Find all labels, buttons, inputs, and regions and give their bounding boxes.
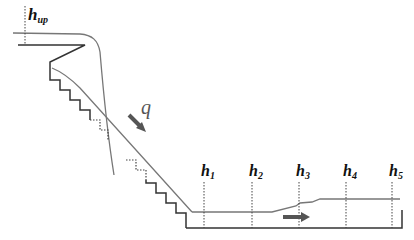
dotted-steps-lower <box>126 160 146 180</box>
gauge-h2: h2 <box>249 162 263 228</box>
basin-water-surface <box>192 199 400 212</box>
chute-flow-line <box>52 68 192 212</box>
svg-text:h2: h2 <box>249 162 263 181</box>
upper-steps <box>50 70 90 120</box>
svg-text:h1: h1 <box>201 162 215 181</box>
gauge-h5: h5 <box>389 162 403 228</box>
svg-text:h5: h5 <box>389 162 403 181</box>
lower-steps <box>146 180 186 228</box>
svg-text:h3: h3 <box>296 162 310 181</box>
svg-text:h4: h4 <box>343 162 357 181</box>
upstream-water-surface <box>13 33 114 175</box>
label-q: q <box>141 96 151 119</box>
label-h-up: hup <box>28 5 48 25</box>
crest-platform <box>18 45 85 70</box>
spillway-diagram: hup h1 h2 h3 h4 h5 q <box>0 0 414 240</box>
dotted-steps-upper <box>90 120 108 140</box>
gauge-h4: h4 <box>343 162 357 228</box>
gauge-h1: h1 <box>201 162 215 228</box>
flow-direction-arrow-basin <box>283 212 310 222</box>
